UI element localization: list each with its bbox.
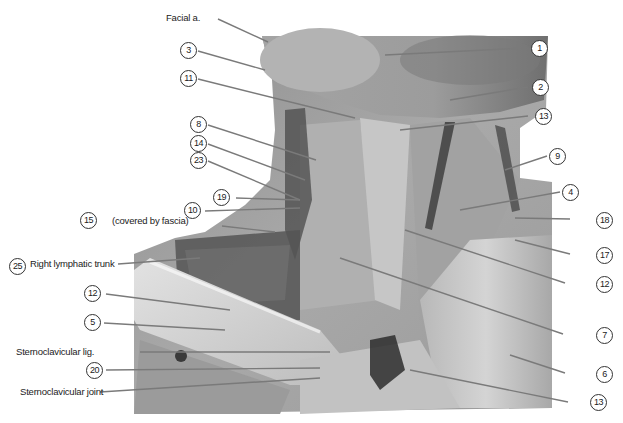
callout-8: 8 (190, 116, 207, 133)
label-covered-by-fascia: (covered by fascia) (112, 215, 188, 227)
callout-9: 9 (549, 148, 566, 165)
callout-18: 18 (596, 212, 613, 229)
callout-11: 11 (180, 70, 197, 87)
callout-1: 1 (531, 40, 548, 57)
callout-7: 7 (596, 327, 613, 344)
callout-3: 3 (180, 42, 197, 59)
callout-6: 6 (596, 366, 613, 383)
callout-4: 4 (562, 184, 579, 201)
callout-12-right: 12 (596, 276, 613, 293)
anatomy-figure: Facial a. (covered by fascia) Right lymp… (0, 0, 623, 423)
callout-19: 19 (213, 189, 230, 206)
label-facial-artery: Facial a. (166, 12, 200, 24)
callout-2: 2 (532, 79, 549, 96)
dissection-photo (0, 0, 623, 423)
callout-13-lower: 13 (590, 394, 607, 411)
label-sternoclavicular-joint: Sternoclavicular joint (20, 386, 103, 398)
callout-13-upper: 13 (535, 108, 552, 125)
callout-12-left: 12 (84, 285, 101, 302)
callout-5: 5 (84, 314, 101, 331)
callout-25: 25 (9, 258, 26, 275)
label-sternoclavicular-ligament: Sternoclavicular lig. (16, 346, 94, 358)
callout-23: 23 (190, 152, 207, 169)
callout-10: 10 (184, 202, 201, 219)
callout-20: 20 (86, 362, 103, 379)
label-right-lymphatic-trunk: Right lymphatic trunk (30, 258, 115, 270)
callout-15: 15 (80, 212, 97, 229)
callout-17: 17 (596, 247, 613, 264)
callout-14: 14 (190, 135, 207, 152)
